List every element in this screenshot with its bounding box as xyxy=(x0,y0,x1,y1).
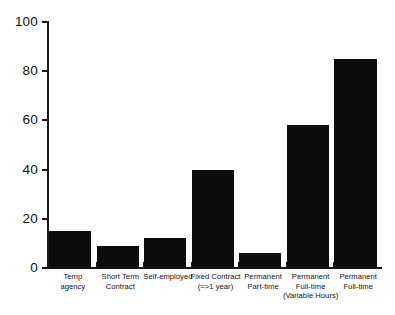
category-label-line: Full-time xyxy=(328,282,388,292)
bar[interactable] xyxy=(144,238,186,268)
y-tick-label-60: 60 xyxy=(0,113,38,127)
y-tick-label-40: 40 xyxy=(0,163,38,177)
y-tick-label-0: 0 xyxy=(0,261,38,275)
category-label: PermanentFull-time xyxy=(328,272,388,291)
category-label-line: Permanent xyxy=(328,272,388,282)
bar[interactable] xyxy=(49,231,91,268)
bar[interactable] xyxy=(192,170,234,268)
bar[interactable] xyxy=(97,246,139,268)
y-tick-40 xyxy=(42,169,49,171)
category-label-line: Contract xyxy=(90,282,150,292)
bar[interactable] xyxy=(239,253,281,268)
bar-chart: 020406080100 TempagencyShort TermContrac… xyxy=(0,0,395,315)
y-tick-label-100: 100 xyxy=(0,15,38,29)
y-tick-0 xyxy=(42,267,49,269)
y-tick-60 xyxy=(42,119,49,121)
bar[interactable] xyxy=(334,59,376,268)
bar-series xyxy=(49,22,382,268)
y-tick-20 xyxy=(42,218,49,220)
y-tick-80 xyxy=(42,70,49,72)
y-tick-label-80: 80 xyxy=(0,64,38,78)
bar[interactable] xyxy=(287,125,329,268)
y-tick-label-20: 20 xyxy=(0,212,38,226)
y-tick-100 xyxy=(42,21,49,23)
category-label-line: (Variable Hours) xyxy=(281,291,341,301)
x-axis-category-labels: TempagencyShort TermContractSelf-employe… xyxy=(49,272,382,312)
